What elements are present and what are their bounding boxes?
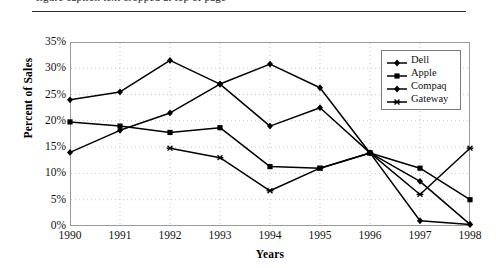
data-point-marker [67, 149, 73, 156]
legend: DellAppleCompaqGateway [381, 50, 461, 110]
diamond-marker-icon [386, 55, 408, 67]
legend-item-gateway[interactable]: Gateway [386, 93, 454, 106]
data-point-marker [467, 197, 472, 202]
data-point-marker [267, 61, 273, 68]
data-point-marker [67, 119, 72, 124]
data-point-marker [167, 110, 173, 117]
diamond-marker-icon [386, 81, 408, 93]
data-point-marker [117, 124, 122, 129]
asterisk-marker-icon [386, 94, 408, 106]
data-point-marker [467, 146, 474, 151]
line-chart-figure: 0%5%10%15%20%25%30%35% Percent of Sales … [0, 14, 496, 268]
legend-label: Dell [408, 55, 429, 66]
data-point-marker [417, 192, 424, 197]
legend-item-dell[interactable]: Dell [386, 54, 454, 67]
data-point-marker [267, 188, 274, 193]
data-point-marker [117, 89, 123, 96]
data-point-marker [394, 59, 400, 66]
data-point-marker [394, 73, 399, 78]
data-point-marker [267, 164, 272, 169]
data-point-marker [394, 85, 400, 92]
legend-label: Apple [408, 68, 437, 79]
horizontal-rule [32, 11, 466, 12]
data-point-marker [417, 166, 422, 171]
data-point-marker [67, 96, 73, 103]
data-point-marker [167, 57, 173, 64]
data-point-marker [394, 99, 401, 104]
legend-label: Gateway [408, 94, 448, 105]
legend-item-compaq[interactable]: Compaq [386, 80, 454, 93]
caption-text: figure caption text cropped at top of pa… [36, 0, 226, 3]
legend-item-apple[interactable]: Apple [386, 67, 454, 80]
data-point-marker [167, 146, 174, 151]
square-marker-icon [386, 68, 408, 80]
data-point-marker [217, 125, 222, 130]
data-point-marker [167, 130, 172, 135]
legend-label: Compaq [408, 81, 447, 92]
